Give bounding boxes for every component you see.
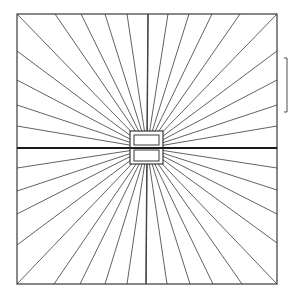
central-box-lower-inner — [134, 150, 159, 161]
ray-line — [147, 148, 277, 284]
ray-line — [147, 14, 168, 148]
central-double-rectangle — [130, 131, 163, 164]
ray-line — [147, 14, 240, 148]
ray-line — [17, 148, 147, 284]
ray-line — [147, 80, 277, 148]
ray-line — [105, 148, 147, 284]
ray-line — [55, 14, 147, 148]
ray-line — [147, 14, 212, 148]
ray-line — [147, 51, 277, 148]
scale-bracket — [284, 58, 287, 112]
central-box-upper-inner — [134, 135, 159, 145]
ray-line — [147, 148, 242, 284]
ray-line — [17, 105, 147, 148]
ray-line — [105, 14, 147, 148]
ray-line — [147, 126, 277, 148]
ray-line — [17, 126, 147, 148]
ray-line — [147, 14, 189, 148]
radial-line-diagram — [0, 0, 289, 297]
ray-line — [147, 148, 277, 190]
ray-line — [147, 14, 277, 148]
ray-line — [147, 105, 277, 148]
ray-line — [147, 148, 277, 243]
ray-line — [17, 148, 147, 245]
ray-line — [17, 80, 147, 148]
ray-line — [147, 148, 190, 284]
ray-line — [17, 14, 147, 148]
ray-line — [17, 148, 147, 191]
ray-line — [17, 51, 147, 148]
ray-line — [54, 148, 147, 284]
